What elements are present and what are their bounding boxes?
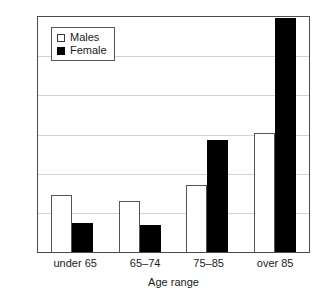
x-tick-label: 65–74 bbox=[130, 257, 161, 269]
bar-males[interactable] bbox=[119, 201, 140, 252]
bar-female[interactable] bbox=[275, 18, 296, 252]
x-axis-tick-labels: under 6565–7475–85over 85 bbox=[37, 257, 310, 273]
chart-legend: Males Female bbox=[51, 27, 115, 61]
bar-males[interactable] bbox=[254, 133, 275, 252]
legend-swatch-males-icon bbox=[57, 34, 65, 42]
bar-chart-figure: Excess deaths 2007/2008 under 6565–7475–… bbox=[0, 0, 329, 303]
bar-female[interactable] bbox=[72, 223, 93, 252]
bar-female[interactable] bbox=[207, 140, 228, 252]
x-tick-label: over 85 bbox=[257, 257, 294, 269]
bar-males[interactable] bbox=[51, 195, 72, 252]
legend-entry-female: Female bbox=[57, 44, 107, 57]
legend-label-males: Males bbox=[70, 31, 99, 44]
x-tick-label: 75–85 bbox=[193, 257, 224, 269]
legend-entry-males: Males bbox=[57, 31, 107, 44]
bar-female[interactable] bbox=[140, 225, 161, 252]
x-tick-label: under 65 bbox=[53, 257, 96, 269]
x-axis-title: Age range bbox=[37, 276, 310, 288]
bar-group bbox=[254, 17, 296, 252]
bar-group bbox=[186, 17, 228, 252]
bar-group bbox=[119, 17, 161, 252]
legend-swatch-female-icon bbox=[57, 47, 65, 55]
bar-males[interactable] bbox=[186, 185, 207, 252]
legend-label-female: Female bbox=[70, 44, 107, 57]
